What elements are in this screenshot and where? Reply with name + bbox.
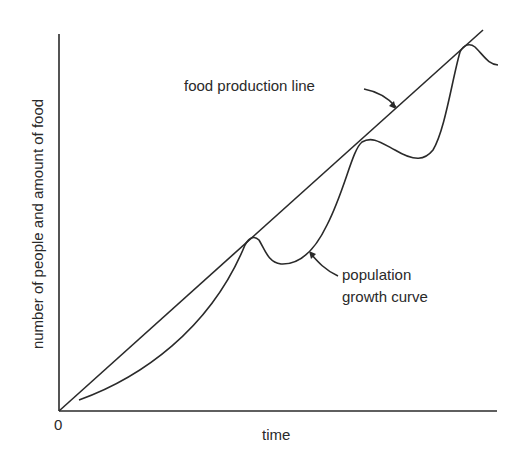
population-label-line2: growth curve xyxy=(342,288,428,305)
chart-canvas xyxy=(0,0,527,470)
food-production-label: food production line xyxy=(184,77,315,94)
population-label-line1: population xyxy=(342,266,411,283)
origin-label: 0 xyxy=(54,416,62,433)
population-annotation-leader xyxy=(311,254,338,276)
population-growth-curve xyxy=(79,45,498,400)
x-axis-label: time xyxy=(262,426,290,443)
y-axis-label: number of people and amount of food xyxy=(29,99,46,349)
